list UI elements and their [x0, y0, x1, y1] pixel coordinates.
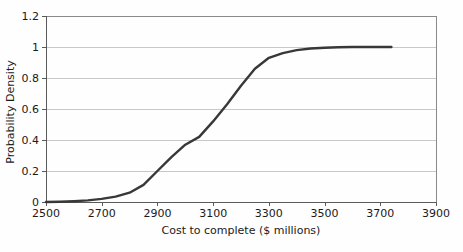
x-tick-label: 2900 — [143, 207, 171, 220]
x-axis-title: Cost to complete ($ millions) — [46, 224, 436, 237]
y-tick-label: 1.2 — [22, 10, 40, 23]
cdf-chart: 2500270029003100330035003700390000.20.40… — [0, 0, 463, 252]
x-tick-label: 3500 — [311, 207, 339, 220]
y-axis-title: Probability Density — [4, 60, 17, 163]
y-tick-label: 0.8 — [22, 72, 40, 85]
x-tick-label: 3700 — [366, 207, 394, 220]
x-tick-label: 3300 — [255, 207, 283, 220]
y-tick-label: 0 — [32, 196, 39, 209]
y-tick-label: 1 — [32, 41, 39, 54]
y-tick-label: 0.2 — [22, 165, 40, 178]
chart-canvas: 2500270029003100330035003700390000.20.40… — [0, 0, 463, 252]
x-tick-label: 3900 — [422, 207, 450, 220]
y-tick-label: 0.6 — [22, 103, 40, 116]
cdf-curve — [46, 47, 391, 202]
x-tick-label: 3100 — [199, 207, 227, 220]
chart-page: 2500270029003100330035003700390000.20.40… — [0, 0, 463, 252]
y-tick-label: 0.4 — [22, 134, 40, 147]
x-tick-label: 2700 — [88, 207, 116, 220]
